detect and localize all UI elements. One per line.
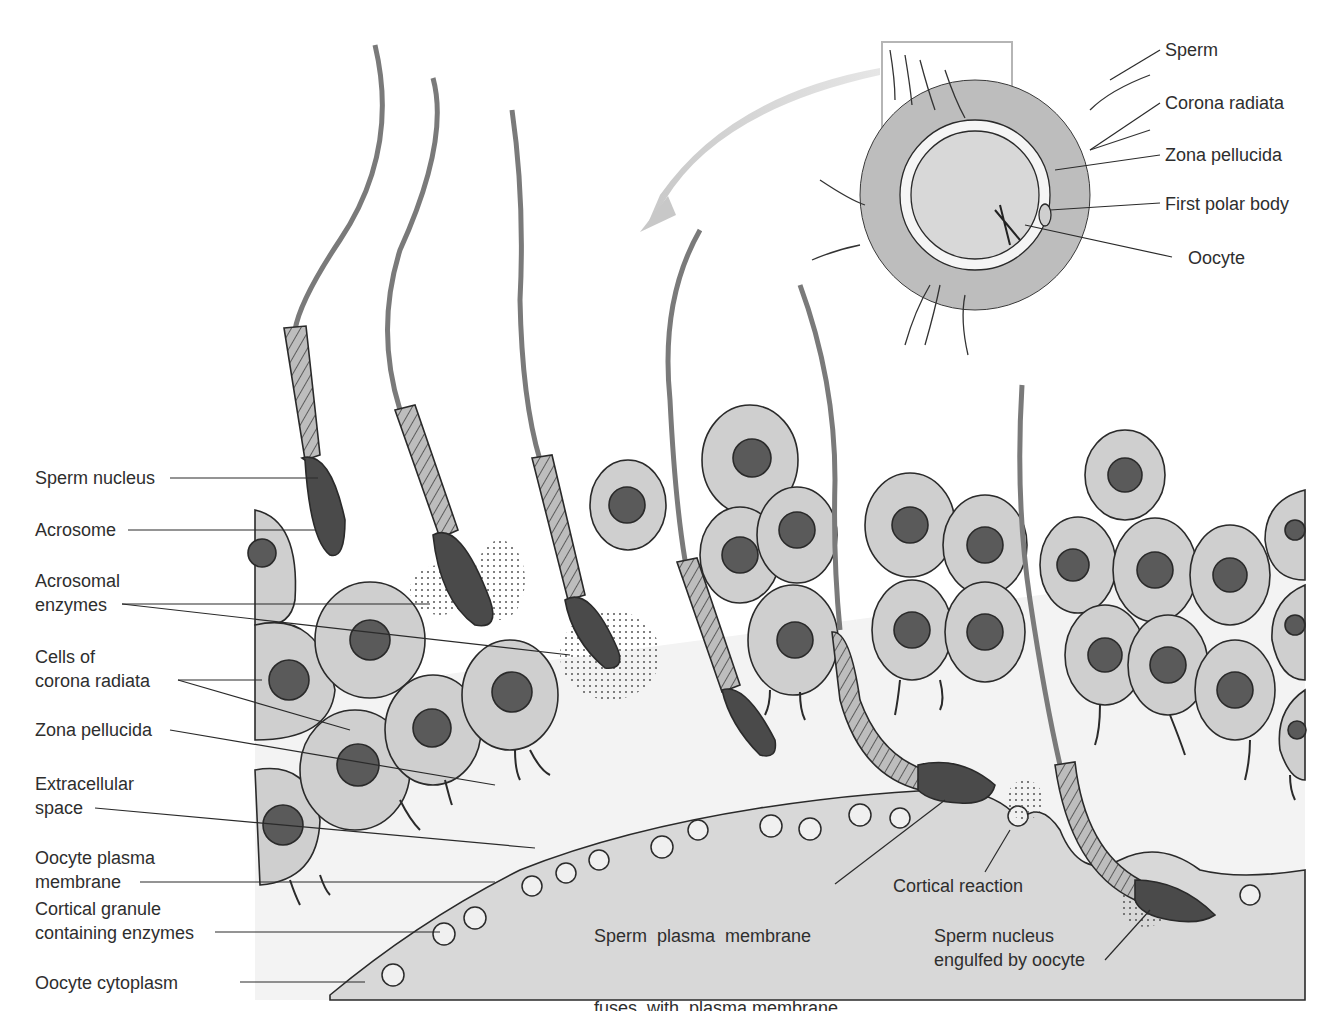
label-line: containing enzymes (35, 921, 194, 945)
label-zona-pellucida: Zona pellucida (1165, 143, 1282, 167)
label-sperm: Sperm (1165, 38, 1218, 62)
label-sperm-nucleus: Sperm nucleus (35, 466, 155, 490)
label-oocyte-plasma-membrane: Oocyte plasma membrane (35, 846, 155, 894)
label-acrosomal-enzymes: Acrosomal enzymes (35, 569, 120, 617)
label-line: engulfed by oocyte (934, 948, 1085, 972)
label-line: fuses with plasma membrane (594, 996, 838, 1011)
label-line: Oocyte plasma (35, 846, 155, 870)
label-line: Cortical granule (35, 897, 194, 921)
label-cortical-reaction: Cortical reaction (893, 874, 1023, 898)
label-acrosome: Acrosome (35, 518, 116, 542)
label-extracellular-space: Extracellular space (35, 772, 134, 820)
label-oocyte-cytoplasm: Oocyte cytoplasm (35, 971, 178, 995)
label-line: space (35, 796, 134, 820)
label-line: membrane (35, 870, 155, 894)
label-cortical-granule: Cortical granule containing enzymes (35, 897, 194, 945)
zoom-arrow (645, 68, 880, 230)
label-line: enzymes (35, 593, 120, 617)
fertilization-diagram (0, 0, 1338, 1011)
label-line: Extracellular (35, 772, 134, 796)
label-nucleus-engulfed: Sperm nucleus engulfed by oocyte (934, 924, 1085, 972)
label-cells-of-corona-radiata: Cells of corona radiata (35, 645, 150, 693)
label-membrane-fusion: Sperm plasma membrane fuses with plasma … (594, 876, 838, 1011)
label-line: corona radiata (35, 669, 150, 693)
label-line: Acrosomal (35, 569, 120, 593)
inset-oocyte (812, 42, 1150, 355)
label-corona-radiata: Corona radiata (1165, 91, 1284, 115)
label-line: Sperm plasma membrane (594, 924, 838, 948)
label-line: Cells of (35, 645, 150, 669)
label-line: Sperm nucleus (934, 924, 1085, 948)
label-first-polar-body: First polar body (1165, 192, 1289, 216)
label-zona-pellucida-main: Zona pellucida (35, 718, 152, 742)
label-oocyte: Oocyte (1188, 246, 1245, 270)
